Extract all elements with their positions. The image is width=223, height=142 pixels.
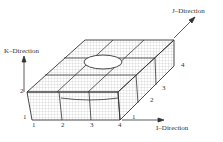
j-direction-label: J–Direction (172, 8, 205, 15)
j-index-1: 1 (132, 114, 136, 121)
i-index-3: 3 (90, 122, 94, 129)
k-index-2: 2 (20, 88, 24, 95)
front-face (27, 92, 120, 120)
j-index-3: 3 (162, 85, 166, 92)
i-index-4: 4 (118, 122, 122, 129)
i-index-2: 2 (61, 122, 65, 129)
k-index-1: 1 (23, 114, 27, 121)
j-index-4: 4 (181, 62, 185, 69)
i-index-1: 1 (32, 122, 36, 129)
i-direction-label: I–Direction (156, 125, 188, 132)
j-index-2: 2 (150, 97, 154, 104)
k-direction-label: K–Direction (4, 48, 39, 55)
hole (84, 55, 122, 69)
